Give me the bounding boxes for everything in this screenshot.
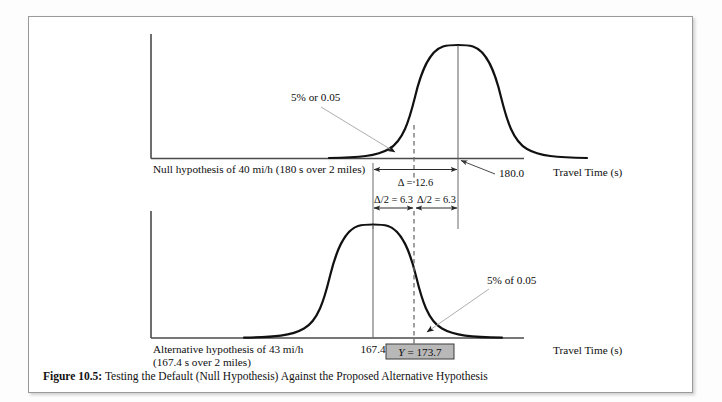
figure-page: 5% or 0.05 Null hypothesis of 40 mi/h (1…: [0, 0, 722, 402]
delta-dimension-label: Δ = 12.6: [398, 177, 433, 188]
critical-value-label: Y = 173.7: [398, 346, 442, 358]
top-axis-title: Travel Time (s): [553, 166, 622, 179]
bottom-panel-left-label-line2: (167.4 s over 2 miles): [153, 356, 251, 369]
top-mean-tick-label: 180.0: [499, 167, 525, 179]
bottom-panel-left-label-line1: Alternative hypothesis of 43 mi/h: [153, 343, 304, 355]
figure-caption-label: Figure 10.5:: [43, 370, 102, 382]
top-tail-leader-line: [321, 107, 395, 152]
top-panel-group: 5% or 0.05 Null hypothesis of 40 mi/h (1…: [151, 34, 622, 183]
bottom-mean-tick-label: 167.4: [360, 343, 386, 355]
half-delta-right-label: Δ/2 = 6.3: [417, 194, 456, 205]
half-delta-left-label: Δ/2 = 6.3: [374, 194, 413, 205]
bottom-tail-leader-line: [427, 289, 489, 332]
bottom-axis-title: Travel Time (s): [553, 344, 622, 357]
hypothesis-test-chart: 5% or 0.05 Null hypothesis of 40 mi/h (1…: [29, 17, 692, 392]
bottom-panel-group: 5% of 0.05 Alternative hypothesis of 43 …: [151, 211, 622, 369]
figure-frame: 5% or 0.05 Null hypothesis of 40 mi/h (1…: [28, 16, 693, 393]
dimension-annotations-group: Δ = 12.6 Δ/2 = 6.3 Δ/2 = 6.3: [373, 159, 458, 230]
figure-caption: Figure 10.5: Testing the Default (Null H…: [43, 369, 682, 383]
top-mean-callout-line: [461, 161, 495, 175]
top-tail-annotation: 5% or 0.05: [291, 91, 341, 103]
critical-value-rest: = 173.7: [405, 346, 442, 358]
bottom-tail-annotation: 5% of 0.05: [487, 274, 537, 286]
figure-caption-text: Testing the Default (Null Hypothesis) Ag…: [105, 370, 488, 382]
top-panel-left-label: Null hypothesis of 40 mi/h (180 s over 2…: [153, 163, 366, 176]
